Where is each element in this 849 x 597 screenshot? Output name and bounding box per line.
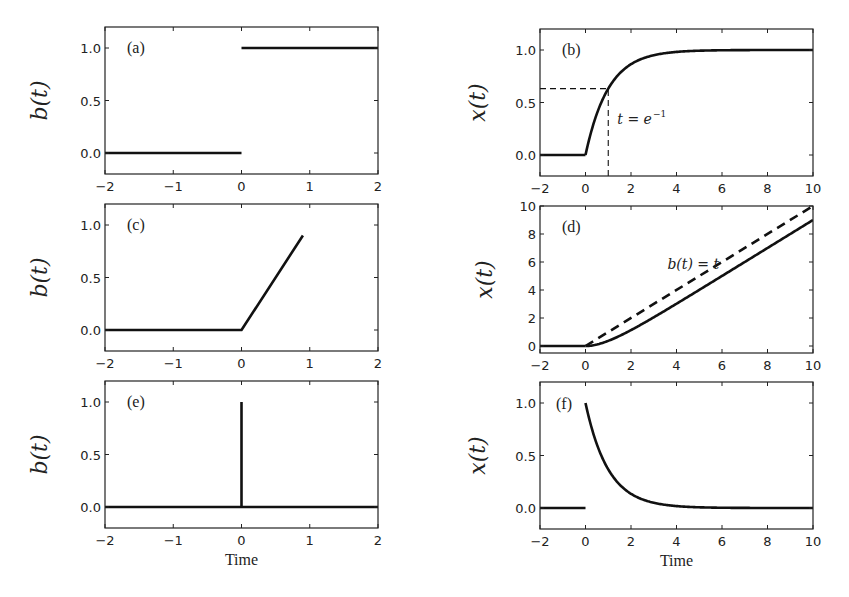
x-tick-label: 0 [237,356,245,371]
x-tick-label: 10 [805,534,822,549]
series-input-ramp [586,206,814,346]
panel-c-ramp-input: −2−10120.00.51.0b(t)(c) [27,204,382,371]
x-axis-label: Time [225,551,258,568]
y-tick-label: 1.0 [515,396,536,411]
y-tick-label: 0.5 [515,96,536,111]
series-response [586,403,814,508]
series-response [586,220,814,346]
x-tick-label: 10 [805,181,822,196]
y-tick-label: 0.0 [515,148,536,163]
annotation-superscript: −1 [653,109,666,119]
x-tick-label: −2 [530,534,549,549]
y-tick-label: 0.5 [80,94,101,109]
y-tick-label: 0.0 [80,323,101,338]
x-tick-label: −2 [95,533,114,548]
x-axis-label: Time [660,552,693,569]
x-tick-label: 10 [805,358,822,373]
y-axis-label: x(t) [465,436,490,474]
x-tick-label: −1 [164,179,183,194]
panel-tag: (a) [127,39,145,57]
panel-b-step-response: −202468100.00.51.0x(t)(b)t = e−1 [465,29,821,196]
x-tick-label: 0 [581,181,589,196]
panel-tag: (c) [127,216,145,234]
plot-area [540,206,813,346]
y-tick-label: 0.5 [80,448,101,463]
x-tick-label: −1 [164,356,183,371]
x-tick-label: −1 [164,533,183,548]
x-tick-label: 2 [627,181,635,196]
plot-area [105,236,303,331]
y-axis-label: x(t) [472,260,497,298]
x-tick-label: 2 [374,179,382,194]
series-ramp [105,236,303,331]
x-tick-label: 8 [763,534,771,549]
x-tick-label: 0 [237,533,245,548]
x-tick-label: 2 [627,534,635,549]
x-tick-label: 8 [763,358,771,373]
y-tick-label: 8 [528,227,536,242]
x-tick-label: 8 [763,181,771,196]
y-tick-label: 2 [528,311,536,326]
annotation: t = e [617,111,652,127]
y-tick-label: 0 [528,339,536,354]
plot-area [105,48,378,153]
y-axis-label: x(t) [465,83,490,121]
panel-f-impulse-response: −202468100.00.51.0x(t)Time(f) [465,382,821,569]
x-tick-label: 2 [374,533,382,548]
panel-tag: (b) [562,41,581,59]
y-tick-label: 10 [519,199,536,214]
x-tick-label: 1 [306,179,314,194]
x-tick-label: −2 [530,358,549,373]
x-tick-label: 6 [718,358,726,373]
x-tick-label: 0 [581,358,589,373]
x-tick-label: −2 [530,181,549,196]
y-tick-label: 0.0 [515,501,536,516]
annotation: b(t) = t [667,256,719,272]
y-axis-label: b(t) [27,257,52,297]
y-tick-label: 0.5 [515,449,536,464]
x-tick-label: 4 [672,358,680,373]
panel-tag: (d) [562,218,581,236]
y-tick-label: 1.0 [80,395,101,410]
y-tick-label: 4 [528,283,536,298]
x-tick-label: 4 [672,534,680,549]
panel-d-ramp-response: −202468100246810x(t)(d)b(t) = t [472,199,821,373]
y-tick-label: 0.5 [80,271,101,286]
x-tick-label: 1 [306,356,314,371]
x-tick-label: 1 [306,533,314,548]
x-tick-label: 4 [672,181,680,196]
x-tick-label: 0 [581,534,589,549]
y-tick-label: 1.0 [80,41,101,56]
panel-tag: (f) [556,395,572,413]
plot-area [540,50,813,176]
plot-area [540,403,813,508]
panel-e-impulse-input: −2−10120.00.51.0b(t)Time(e) [27,381,382,568]
x-tick-label: 2 [374,356,382,371]
y-tick-label: 1.0 [515,43,536,58]
x-tick-label: 6 [718,534,726,549]
y-axis-label: b(t) [27,434,52,474]
y-tick-label: 6 [528,255,536,270]
y-axis-label: b(t) [27,80,52,120]
x-tick-label: −2 [95,356,114,371]
x-tick-label: 2 [627,358,635,373]
axes-frame [540,206,813,353]
y-tick-label: 0.0 [80,146,101,161]
x-tick-label: 6 [718,181,726,196]
x-tick-label: −2 [95,179,114,194]
x-tick-label: 0 [237,179,245,194]
plot-area [105,402,378,507]
figure-six-panel-responses: −2−10120.00.51.0b(t)(a) −202468100.00.51… [0,0,849,597]
panel-tag: (e) [127,393,145,411]
y-tick-label: 1.0 [80,218,101,233]
series-response [586,50,814,155]
panel-a-step-input: −2−10120.00.51.0b(t)(a) [27,27,382,194]
y-tick-label: 0.0 [80,500,101,515]
